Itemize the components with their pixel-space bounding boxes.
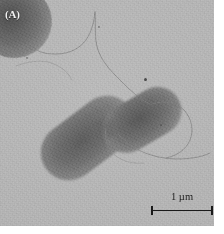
scale-bar-line: [151, 206, 213, 215]
panel-label: (A): [5, 9, 20, 20]
micrograph-image: (A) 1 µm: [0, 0, 214, 226]
scale-bar: 1 µm: [151, 192, 213, 215]
plate-margin-bottom: [0, 226, 224, 234]
plate-margin-right: [214, 0, 224, 234]
scale-bar-rule: [151, 210, 213, 212]
scale-bar-label: 1 µm: [151, 192, 213, 203]
figure-root: (A) 1 µm: [0, 0, 224, 234]
scale-bar-cap-right: [211, 206, 213, 215]
